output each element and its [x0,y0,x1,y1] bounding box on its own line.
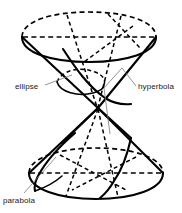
upper-cone-generator-c-dashed [84,26,133,62]
ellipse-label: ellipse [15,82,39,91]
conic-sections-figure: ellipse hyperbola parabola [0,0,182,213]
conic-sections-illustration: ellipse hyperbola parabola [0,0,182,213]
parabola-section-chord [35,176,62,191]
top-rim-back-dashed [22,12,156,37]
upper-cone-left-slant [22,37,98,108]
top-rim-front [22,37,156,62]
parabola-label: parabola [3,196,35,205]
lower-cone-left-slant [29,108,98,173]
hyperbola-branch-upper [63,49,131,104]
hyperbola-label: hyperbola [138,82,174,91]
upper-cone-generator-d-dashed [108,14,140,48]
